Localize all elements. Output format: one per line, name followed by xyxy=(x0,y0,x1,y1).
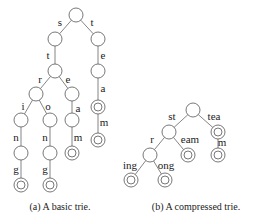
trie-node xyxy=(48,64,62,78)
edge-label: o xyxy=(45,100,51,112)
final-node-inner xyxy=(161,176,169,184)
trie-node xyxy=(65,113,79,127)
trie-figure: sttereaioamnnmggstteareammingong(a) A ba… xyxy=(0,0,264,217)
edge-label: tea xyxy=(208,110,221,122)
trie-edge xyxy=(154,137,164,149)
edge-label: a xyxy=(76,102,81,114)
trie-node xyxy=(14,113,28,127)
edge-label: t xyxy=(46,49,49,61)
caption-b: (b) A compressed trie. xyxy=(152,201,240,213)
trie-edge xyxy=(40,76,50,88)
edge-label: eam xyxy=(181,133,200,145)
edge-label: st xyxy=(168,110,175,122)
trie-node xyxy=(186,103,200,117)
edge-label: e xyxy=(66,73,71,85)
edge-label: a xyxy=(101,82,106,94)
trie-edge xyxy=(174,115,188,128)
trie-node xyxy=(48,32,62,46)
trie-node xyxy=(162,125,176,139)
edge-label: g xyxy=(13,163,19,175)
trie-node xyxy=(65,87,79,101)
trie-node xyxy=(143,148,157,162)
trie-node xyxy=(69,8,83,22)
edge-label: n xyxy=(42,131,48,143)
trie-node xyxy=(29,87,43,101)
trie-edge xyxy=(24,100,32,114)
edge-label: e xyxy=(101,49,106,61)
edge-label: ing xyxy=(123,159,138,171)
edge-label: m xyxy=(218,136,227,148)
edge-label: r xyxy=(150,133,154,145)
edge-label: m xyxy=(74,131,83,143)
trie-node xyxy=(43,113,57,127)
edge-label: t xyxy=(90,16,93,28)
edge-label: ong xyxy=(158,159,175,171)
trie-node xyxy=(43,146,57,160)
final-node-inner xyxy=(46,181,54,189)
final-node-inner xyxy=(214,151,222,159)
trie-node xyxy=(14,146,28,160)
final-node-inner xyxy=(94,103,102,111)
caption-a: (a) A basic trie. xyxy=(29,201,90,213)
edge-label: n xyxy=(13,131,19,143)
trie-node xyxy=(91,64,105,78)
final-node-inner xyxy=(127,176,135,184)
edge-label: g xyxy=(42,163,48,175)
edge-label: s xyxy=(58,16,62,28)
final-node-inner xyxy=(17,181,25,189)
edge-label: i xyxy=(21,100,24,112)
edge-label: m xyxy=(100,116,109,128)
trie-node xyxy=(91,32,105,46)
final-node-inner xyxy=(94,136,102,144)
final-node-inner xyxy=(184,151,192,159)
final-node-inner xyxy=(68,149,76,157)
edge-label: r xyxy=(38,73,42,85)
